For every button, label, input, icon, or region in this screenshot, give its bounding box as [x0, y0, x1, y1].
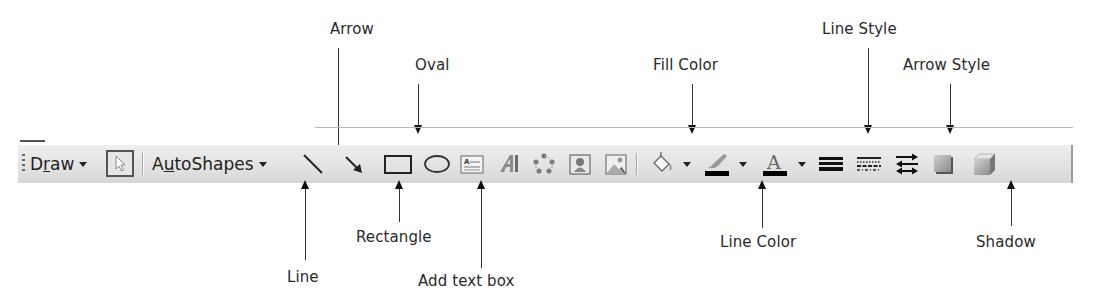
autoshapes-menu-label: AutoShapes — [152, 154, 254, 174]
arrow-style-button[interactable] — [892, 145, 922, 183]
callout-pointer-add-text-box — [481, 182, 482, 268]
fill-color-button[interactable] — [648, 145, 676, 183]
fill-color-dropdown[interactable] — [678, 145, 691, 183]
chevron-down-icon — [259, 162, 267, 167]
callout-pointer-line-style — [868, 48, 869, 132]
line-button[interactable] — [300, 145, 326, 183]
chevron-down-icon — [798, 162, 806, 167]
toolbar-separator — [142, 153, 144, 175]
font-color-dropdown[interactable] — [793, 145, 806, 183]
diagram-icon — [530, 151, 558, 177]
draw-menu-button[interactable]: Draw — [30, 145, 87, 183]
callout-pointer-oval — [418, 84, 419, 132]
line-style-button[interactable] — [816, 145, 846, 183]
paint-bucket-icon — [648, 151, 676, 177]
3d-cube-icon — [968, 150, 1000, 178]
wordart-icon — [496, 151, 524, 177]
callout-pointer-shadow — [1011, 182, 1012, 226]
insert-picture-button[interactable] — [602, 145, 630, 183]
toolbar-top-border — [315, 127, 1073, 128]
arrow-style-icon — [892, 151, 922, 177]
text-box-icon: A — [458, 151, 486, 177]
callout-label-line-style: Line Style — [822, 20, 897, 38]
line-style-icon — [816, 151, 846, 177]
toolbar-separator — [636, 153, 638, 175]
font-color-a-icon: A — [760, 149, 790, 179]
callout-pointer-rectangle — [399, 182, 400, 222]
line-icon — [300, 151, 326, 177]
picture-icon — [602, 151, 630, 177]
rectangle-icon — [382, 151, 414, 177]
font-color-button[interactable]: A — [760, 145, 790, 183]
callout-pointer-fill-color — [692, 84, 693, 132]
oval-icon — [422, 151, 452, 177]
toolbar-grip-handle[interactable] — [22, 154, 25, 174]
3d-style-button[interactable] — [968, 145, 1000, 183]
callout-pointer-line — [305, 182, 306, 260]
arrow-icon — [341, 151, 367, 177]
dash-style-icon — [854, 151, 884, 177]
callout-label-oval: Oval — [415, 56, 449, 74]
callout-label-line-color: Line Color — [720, 233, 796, 251]
callout-label-shadow: Shadow — [976, 233, 1036, 251]
dash-style-button[interactable] — [854, 145, 884, 183]
callout-pointer-arrow-style — [950, 84, 951, 132]
oval-button[interactable] — [422, 145, 452, 183]
shadow-style-button[interactable] — [928, 145, 958, 183]
chevron-down-icon — [79, 162, 87, 167]
clip-art-button[interactable] — [566, 145, 594, 183]
select-objects-button[interactable] — [106, 150, 134, 177]
rectangle-button[interactable] — [382, 145, 414, 183]
shadow-icon — [928, 150, 958, 178]
chevron-down-icon — [683, 162, 691, 167]
callout-label-arrow: Arrow — [330, 20, 374, 38]
autoshapes-menu-button[interactable]: AutoShapes — [152, 145, 267, 183]
chevron-down-icon — [739, 162, 747, 167]
wordart-button[interactable] — [496, 145, 524, 183]
drawing-toolbar: Draw AutoShapes — [18, 145, 1073, 183]
callout-label-line: Line — [287, 268, 319, 286]
arrow-button[interactable] — [341, 145, 367, 183]
svg-text:A: A — [766, 151, 781, 173]
callout-pointer-line-color — [762, 182, 763, 228]
callout-label-fill-color: Fill Color — [653, 56, 718, 74]
svg-text:A: A — [464, 158, 470, 166]
line-color-button[interactable] — [702, 145, 732, 183]
clip-art-icon — [566, 151, 594, 177]
pointer-arrow-icon — [108, 152, 132, 175]
callout-label-add-text-box: Add text box — [418, 272, 515, 290]
paintbrush-icon — [702, 149, 732, 179]
line-color-dropdown[interactable] — [734, 145, 747, 183]
callout-label-arrow-style: Arrow Style — [903, 56, 990, 74]
text-box-button[interactable]: A — [458, 145, 486, 183]
toolbar-left-edge — [20, 140, 45, 142]
callout-label-rectangle: Rectangle — [356, 228, 432, 246]
draw-menu-label: Draw — [30, 154, 74, 174]
diagram-button[interactable] — [530, 145, 558, 183]
